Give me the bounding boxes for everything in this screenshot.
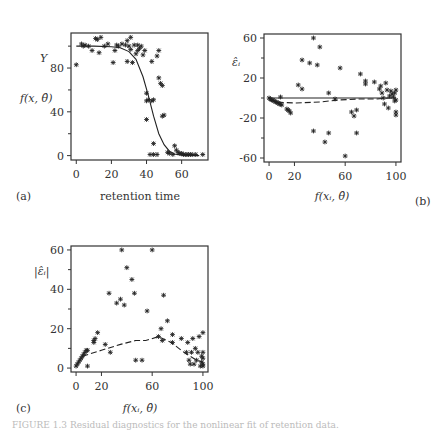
data-point-star-icon xyxy=(108,350,113,355)
y-axis-label-fitted: f(x, θ̂) xyxy=(19,92,52,105)
data-point-star-icon xyxy=(197,334,202,339)
y-axis-label: ε̂ᵢ xyxy=(232,56,240,69)
data-point-star-icon xyxy=(155,152,160,157)
x-axis-label: retention time xyxy=(100,190,180,203)
data-point-star-icon xyxy=(352,114,357,119)
panel-label: (b) xyxy=(415,195,431,208)
y-tick-label: 20 xyxy=(50,323,64,336)
data-point-star-icon xyxy=(98,35,103,40)
data-point-star-icon xyxy=(150,248,155,253)
y-tick-label: 60 xyxy=(50,244,64,257)
data-point-star-icon xyxy=(156,48,161,53)
figure: 020406004080(a)retention timeYf(x, θ̂) 0… xyxy=(0,0,448,430)
data-point-star-icon xyxy=(386,106,391,111)
data-point-star-icon xyxy=(120,42,125,47)
data-point-star-icon xyxy=(133,358,138,363)
data-point-star-icon xyxy=(311,129,316,134)
data-point-star-icon xyxy=(383,81,388,86)
data-point-star-icon xyxy=(190,336,195,341)
data-point-star-icon xyxy=(160,83,165,88)
data-point-star-icon xyxy=(144,117,149,122)
x-tick-label: 60 xyxy=(338,170,352,183)
data-point-star-icon xyxy=(192,362,197,367)
y-tick-label: 60 xyxy=(243,32,257,45)
data-point-star-icon xyxy=(201,364,206,369)
data-point-star-icon xyxy=(354,131,359,136)
data-point-star-icon xyxy=(85,348,90,353)
data-point-star-icon xyxy=(124,265,129,270)
data-point-star-icon xyxy=(363,79,368,84)
x-tick-label: 20 xyxy=(94,380,108,393)
x-axis-label: f(xᵢ, θ̂) xyxy=(314,190,350,203)
data-point-star-icon xyxy=(139,44,144,49)
data-point-star-icon xyxy=(193,346,198,351)
data-point-star-icon xyxy=(130,60,135,65)
y-tick-label: -60 xyxy=(239,152,257,165)
data-point-star-icon xyxy=(97,50,102,55)
data-point-star-icon xyxy=(151,97,156,102)
data-point-star-icon xyxy=(201,350,206,355)
data-point-star-icon xyxy=(85,364,90,369)
figure-caption: FIGURE 1.3 Residual diagnostics for the … xyxy=(12,420,339,430)
data-point-star-icon xyxy=(140,358,145,363)
data-point-star-icon xyxy=(113,48,118,53)
data-point-star-icon xyxy=(200,152,205,157)
data-point-star-icon xyxy=(132,291,137,296)
data-point-star-icon xyxy=(107,291,112,296)
panel-label: (c) xyxy=(16,402,31,415)
data-point-star-icon xyxy=(123,43,128,48)
x-tick-label: 40 xyxy=(140,168,154,181)
data-point-star-icon xyxy=(300,58,305,63)
y-tick-label: 40 xyxy=(50,283,64,296)
data-point-star-icon xyxy=(288,111,293,116)
data-point-star-icon xyxy=(394,113,399,118)
data-point-star-icon xyxy=(95,37,100,42)
x-tick-label: 60 xyxy=(175,168,189,181)
data-point-star-icon xyxy=(162,113,167,118)
x-tick-label: 20 xyxy=(287,170,301,183)
data-point-star-icon xyxy=(354,108,359,113)
data-point-star-icon xyxy=(278,95,283,100)
data-point-star-icon xyxy=(122,303,127,308)
data-point-star-icon xyxy=(193,152,198,157)
x-tick-label: 100 xyxy=(385,170,406,183)
data-point-star-icon xyxy=(159,326,164,331)
data-point-star-icon xyxy=(74,62,79,67)
fitted-curve-line xyxy=(76,46,199,156)
data-point-star-icon xyxy=(394,88,399,93)
smoother-dashed-line xyxy=(82,337,202,363)
data-point-star-icon xyxy=(179,336,184,341)
data-point-star-icon xyxy=(326,91,331,96)
data-point-star-icon xyxy=(201,330,206,335)
data-point-star-icon xyxy=(128,35,133,40)
data-point-star-icon xyxy=(311,36,316,41)
data-point-star-icon xyxy=(172,143,177,148)
data-point-star-icon xyxy=(385,88,390,93)
data-point-star-icon xyxy=(155,54,160,59)
data-point-star-icon xyxy=(201,356,206,361)
data-point-star-icon xyxy=(185,340,190,345)
data-point-star-icon xyxy=(141,52,146,57)
data-point-star-icon xyxy=(103,342,108,347)
data-point-star-icon xyxy=(189,350,194,355)
data-point-star-icon xyxy=(145,309,150,314)
x-axis-label: f(xᵢ, θ̂) xyxy=(122,402,158,415)
data-point-star-icon xyxy=(380,91,385,96)
y-axis-label-y: Y xyxy=(40,52,49,65)
data-point-star-icon xyxy=(322,140,327,145)
data-point-star-icon xyxy=(382,102,387,107)
y-tick-label: 0 xyxy=(57,362,64,375)
data-point-star-icon xyxy=(83,43,88,48)
y-tick-label: 20 xyxy=(243,72,257,85)
data-point-star-icon xyxy=(326,131,331,136)
data-point-star-icon xyxy=(300,87,305,92)
panel-c-absolute-residual-plot: 020601000204060(c)f(xᵢ, θ̂)|ε̂ᵢ| xyxy=(16,244,213,415)
data-point-star-icon xyxy=(156,75,161,80)
data-point-star-icon xyxy=(378,84,383,89)
x-tick-label: 100 xyxy=(192,380,213,393)
data-point-star-icon xyxy=(170,332,175,337)
panel-label: (a) xyxy=(16,190,31,203)
data-point-star-icon xyxy=(114,301,119,306)
data-point-star-icon xyxy=(119,248,124,253)
data-point-star-icon xyxy=(279,103,284,108)
